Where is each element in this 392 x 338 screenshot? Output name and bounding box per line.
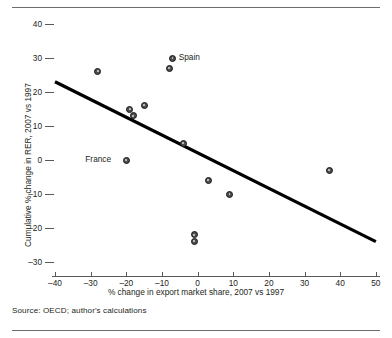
scatter-point: [169, 55, 176, 62]
scatter-point: [123, 157, 130, 164]
top-divider: [12, 7, 380, 8]
scatter-point: [191, 238, 198, 245]
point-label-spain: Spain: [179, 52, 200, 62]
figure-panel: Cumulative % change in RER, 2007 vs 1997…: [0, 0, 392, 338]
y-tick-label: –10: [14, 189, 42, 199]
y-tick-label: 0: [14, 155, 42, 165]
y-axis-title: Cumulative % change in RER, 2007 vs 1997: [23, 45, 33, 285]
scatter-point: [205, 177, 212, 184]
scatter-point: [326, 167, 333, 174]
y-tick-mark: [45, 58, 54, 59]
y-tick-label: –30: [14, 257, 42, 267]
x-axis-line: [52, 276, 380, 277]
y-tick-label: 10: [14, 121, 42, 131]
scatter-point: [94, 68, 101, 75]
y-tick-mark: [45, 160, 54, 161]
y-tick-mark: [45, 228, 54, 229]
y-tick-mark: [45, 24, 54, 25]
y-tick-mark: [45, 194, 54, 195]
y-tick-label: –20: [14, 223, 42, 233]
scatter-point: [166, 65, 173, 72]
y-tick-mark: [45, 92, 54, 93]
scatter-point: [141, 102, 148, 109]
source-note: Source: OECD; author's calculations: [12, 306, 147, 315]
y-tick-label: 30: [14, 53, 42, 63]
y-tick-mark: [45, 126, 54, 127]
scatter-point: [226, 191, 233, 198]
scatter-point: [180, 140, 187, 147]
y-tick-mark: [45, 262, 54, 263]
y-tick-label: 40: [14, 19, 42, 29]
bottom-divider: [12, 330, 380, 331]
y-tick-label: 20: [14, 87, 42, 97]
point-label-france: France: [85, 154, 111, 164]
scatter-point: [130, 112, 137, 119]
x-axis-title: % change in export market share, 2007 vs…: [0, 287, 392, 297]
